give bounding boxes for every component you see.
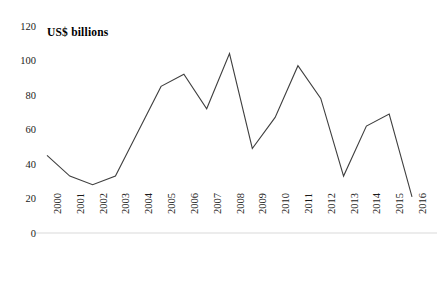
x-tick-label: 2011 — [303, 193, 314, 237]
chart-title: US$ billions — [47, 26, 109, 38]
x-tick-label: 2006 — [189, 193, 200, 237]
x-tick-label: 2005 — [166, 193, 177, 237]
x-tick-label: 2012 — [326, 193, 337, 237]
x-tick-label: 2014 — [371, 193, 382, 237]
x-tick-label: 2007 — [212, 193, 223, 237]
x-tick-label: 2004 — [143, 193, 154, 237]
x-tick-label: 2015 — [394, 193, 405, 237]
x-tick-label: 2001 — [75, 193, 86, 237]
x-tick-label: 2010 — [280, 193, 291, 237]
x-tick-label: 2002 — [98, 193, 109, 237]
x-axis-tick-labels: 2000200120022003200420052006200720082009… — [0, 0, 443, 282]
x-tick-label: 2000 — [52, 193, 63, 237]
x-tick-label: 2003 — [120, 193, 131, 237]
x-tick-label: 2008 — [235, 193, 246, 237]
x-tick-label: 2016 — [417, 193, 428, 237]
x-tick-label: 2013 — [349, 193, 360, 237]
x-tick-label: 2009 — [257, 193, 268, 237]
line-chart: 020406080100120 200020012002200320042005… — [0, 0, 443, 282]
